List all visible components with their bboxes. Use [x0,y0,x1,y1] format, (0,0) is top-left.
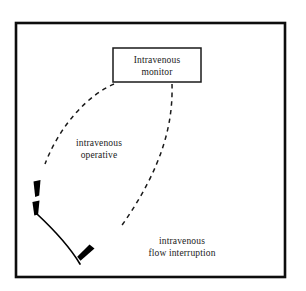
node-intravenous-monitor-box[interactable] [113,48,201,82]
node-intravenous-monitor-label-line2: monitor [141,67,173,77]
edge-label-intravenous-flow-interruption-line1: intravenous [159,236,205,246]
edge-label-intravenous-operative-line1: intravenous [76,138,122,148]
diagram-svg: Intravenous monitor intravenous operativ… [0,0,306,291]
diagram-canvas: Intravenous monitor intravenous operativ… [0,0,306,291]
edge-label-intravenous-operative-line2: operative [81,150,118,160]
edge-label-intravenous-flow-interruption-line2: flow interruption [148,248,215,258]
node-intravenous-monitor-label-line1: Intravenous [134,55,181,65]
